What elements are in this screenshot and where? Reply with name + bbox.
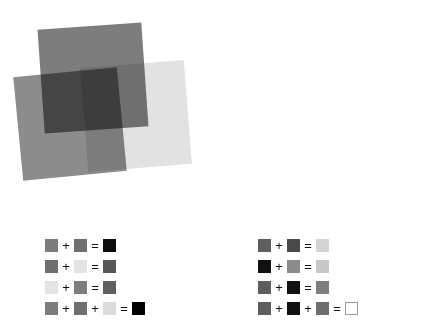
plus-operator: + (271, 281, 287, 294)
legend-operand-swatch (258, 239, 271, 252)
screen-panel (222, 0, 444, 225)
plus-operator: + (87, 302, 103, 315)
plus-operator: + (300, 302, 316, 315)
plus-operator: + (271, 239, 287, 252)
legend-row: += (258, 278, 444, 297)
multiply-panel (0, 0, 222, 225)
legend-operand-swatch (74, 281, 87, 294)
legend-operand-swatch (287, 302, 300, 315)
legend-row: += (45, 257, 245, 276)
equals-operator: = (300, 239, 316, 252)
legend-result-swatch (316, 281, 329, 294)
legend-result-swatch (103, 281, 116, 294)
legend-operand-swatch (74, 260, 87, 273)
legend-row: += (45, 278, 245, 297)
legend-operand-swatch (258, 302, 271, 315)
plus-operator: + (271, 260, 287, 273)
screen-legend: +=+=+=++= (258, 236, 444, 320)
multiply-square-bottom-right (80, 60, 192, 172)
equals-operator: = (300, 281, 316, 294)
legend-operand-swatch (258, 260, 271, 273)
legend-operand-swatch (258, 281, 271, 294)
figure-root: +=+=+=++= +=+=+=++= (0, 0, 444, 333)
screen-square-bottom-right (302, 60, 414, 172)
legend-result-swatch (316, 239, 329, 252)
legend-row: += (258, 236, 444, 255)
legend-result-swatch (316, 260, 329, 273)
equals-operator: = (87, 239, 103, 252)
legend-row: ++= (258, 299, 444, 318)
multiply-legend: +=+=+=++= (45, 236, 245, 320)
legend-operand-swatch (45, 302, 58, 315)
equals-operator: = (87, 281, 103, 294)
legend-operand-swatch (45, 260, 58, 273)
legend-operand-swatch (316, 302, 329, 315)
legend-operand-swatch (74, 239, 87, 252)
legend-operand-swatch (45, 239, 58, 252)
multiply-square-stage (0, 0, 222, 225)
plus-operator: + (271, 302, 287, 315)
legend-result-swatch (132, 302, 145, 315)
legend-operand-swatch (74, 302, 87, 315)
plus-operator: + (58, 281, 74, 294)
legend-operand-swatch (287, 239, 300, 252)
equals-operator: = (116, 302, 132, 315)
legend-operand-swatch (287, 281, 300, 294)
screen-square-stage (222, 0, 444, 225)
plus-operator: + (58, 302, 74, 315)
legend-row: += (45, 236, 245, 255)
legend-result-swatch (103, 239, 116, 252)
equals-operator: = (300, 260, 316, 273)
equals-operator: = (329, 302, 345, 315)
legend-row: ++= (45, 299, 245, 318)
legend-operand-swatch (287, 260, 300, 273)
legend-result-swatch (103, 260, 116, 273)
legend-result-swatch (345, 302, 358, 315)
legend-operand-swatch (45, 281, 58, 294)
legend-operand-swatch (103, 302, 116, 315)
legend-row: += (258, 257, 444, 276)
plus-operator: + (58, 260, 74, 273)
plus-operator: + (58, 239, 74, 252)
equals-operator: = (87, 260, 103, 273)
